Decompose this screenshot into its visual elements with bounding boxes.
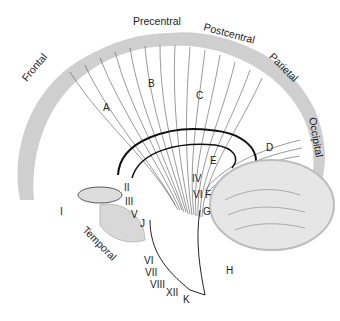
- tract-label-c: C: [196, 91, 203, 101]
- nerve-label-i: I: [60, 207, 63, 217]
- olfactory-tract: [78, 187, 122, 203]
- nerve-label-vii: VII: [145, 268, 157, 278]
- tract-label-h: H: [226, 266, 233, 276]
- nerve-label-viii: VIII: [150, 280, 165, 290]
- cerebellum: [210, 160, 334, 250]
- nerve-label-iv: IV: [192, 174, 201, 184]
- temporal-lobe: [100, 204, 145, 242]
- lobe-label-precentral: Precentral: [133, 16, 181, 27]
- tract-label-f: F: [205, 190, 211, 200]
- brain-tract-diagram: [0, 0, 340, 321]
- nerve-label-ii: II: [124, 183, 130, 193]
- nerve-label-xii: XII: [166, 288, 178, 298]
- tract-label-b: B: [148, 79, 155, 89]
- nerve-label-vi: VI: [144, 256, 153, 266]
- nerve-label-iii: III: [125, 197, 133, 207]
- tract-label-e: E: [210, 156, 217, 166]
- tract-label-d: D: [266, 143, 273, 153]
- nerve-label-vi-f: VI: [193, 190, 202, 200]
- tract-label-j: J: [140, 219, 145, 229]
- tract-label-a: A: [103, 103, 110, 113]
- tract-label-k: K: [183, 295, 190, 305]
- nerve-label-v: V: [131, 210, 138, 220]
- tract-label-g: G: [203, 207, 211, 217]
